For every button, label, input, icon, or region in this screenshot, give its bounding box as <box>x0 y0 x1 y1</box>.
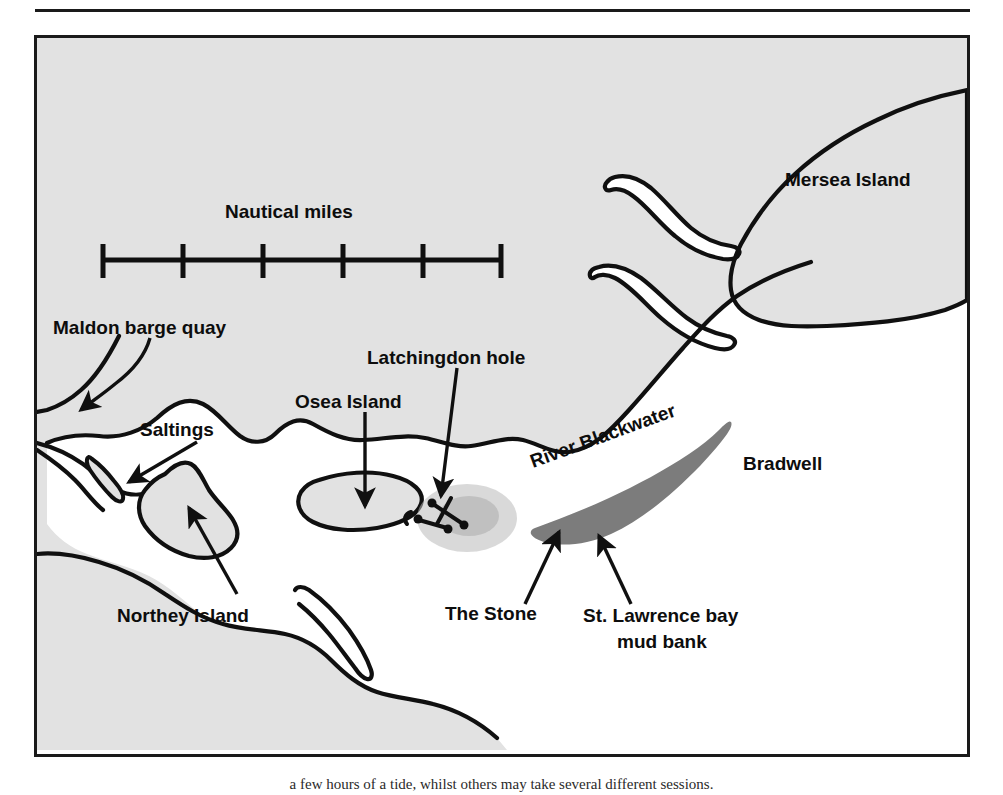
label-maldon-barge-quay: Maldon barge quay <box>53 317 227 338</box>
map-frame: Nautical miles Mersea Island <box>34 35 970 757</box>
label-bradwell: Bradwell <box>743 453 822 474</box>
label-latchingdon-hole: Latchingdon hole <box>367 347 525 368</box>
label-northey-island: Northey Island <box>117 605 249 626</box>
anchor-icon-2-dot <box>414 515 423 524</box>
label-mersea-island: Mersea Island <box>785 169 911 190</box>
label-st-lawrence-bay-line1: St. Lawrence bay <box>583 605 739 626</box>
label-saltings: Saltings <box>140 419 214 440</box>
anchor-icon-2-dot2 <box>444 525 453 534</box>
label-osea-island: Osea Island <box>295 391 402 412</box>
label-st-lawrence-bay-line2: mud bank <box>617 631 707 652</box>
label-the-stone: The Stone <box>445 603 537 624</box>
estuary-map: Nautical miles Mersea Island <box>37 38 967 754</box>
anchor-icon-1-dot <box>428 499 437 508</box>
figure-page: Nautical miles Mersea Island <box>0 0 1003 795</box>
scale-bar-label: Nautical miles <box>225 201 353 222</box>
anchor-icon-1-dot2 <box>460 521 469 530</box>
latchingdon-shoal-shading <box>417 484 517 552</box>
figure-caption: a few hours of a tide, whilst others may… <box>0 774 1003 795</box>
header-rule <box>35 9 970 12</box>
